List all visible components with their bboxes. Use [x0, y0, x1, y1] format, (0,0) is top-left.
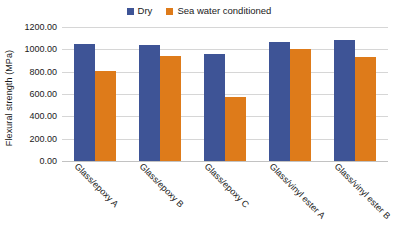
y-axis-tick-label: 600.00 [29, 90, 57, 99]
legend-swatch-icon [127, 8, 134, 15]
bar-groups [62, 27, 388, 161]
bar[interactable] [225, 97, 246, 161]
bar-chart: DrySea water conditioned Flexural streng… [0, 0, 398, 252]
y-axis-tick-label: 400.00 [29, 112, 57, 121]
y-axis-title: Flexural strength (MPa) [2, 28, 16, 168]
y-axis-title-text: Flexural strength (MPa) [4, 50, 14, 146]
bar-group [264, 27, 316, 161]
legend-swatch-icon [166, 8, 173, 15]
bar[interactable] [290, 49, 311, 161]
x-axis-category-label: Glass/vinyl ester A [268, 162, 327, 221]
legend-entry[interactable]: Sea water conditioned [166, 6, 271, 16]
legend-label: Dry [138, 6, 153, 16]
y-axis-tick-label: 800.00 [29, 67, 57, 76]
y-axis-tick-label: 0.00 [39, 157, 57, 166]
x-axis-category-label: Glass/epoxy A [72, 162, 119, 209]
bar-group [329, 27, 381, 161]
bar-group [69, 27, 121, 161]
legend-entry[interactable]: Dry [127, 6, 153, 16]
bar[interactable] [355, 57, 376, 161]
y-axis-tick-label: 200.00 [29, 134, 57, 143]
legend-label: Sea water conditioned [177, 6, 271, 16]
bar[interactable] [160, 56, 181, 161]
bar-group [134, 27, 186, 161]
y-axis-tick-labels: 1200.001000.00800.00600.00400.00200.000.… [16, 27, 60, 161]
bar[interactable] [95, 71, 116, 161]
plot-area [62, 27, 388, 161]
bar[interactable] [139, 45, 160, 161]
bar-group [199, 27, 251, 161]
y-axis-tick-label: 1200.00 [24, 23, 57, 32]
chart-legend: DrySea water conditioned [0, 4, 398, 18]
x-axis-category-label: Glass/vinyl ester B [333, 162, 392, 221]
bar[interactable] [334, 40, 355, 161]
y-axis-tick-label: 1000.00 [24, 45, 57, 54]
x-axis-category-labels: Glass/epoxy AGlass/epoxy BGlass/epoxy CG… [62, 162, 388, 252]
bar[interactable] [74, 44, 95, 161]
x-axis-category-label: Glass/epoxy C [203, 162, 251, 210]
x-axis-category-label: Glass/epoxy B [137, 162, 184, 209]
bar[interactable] [269, 42, 290, 161]
bar[interactable] [204, 54, 225, 161]
